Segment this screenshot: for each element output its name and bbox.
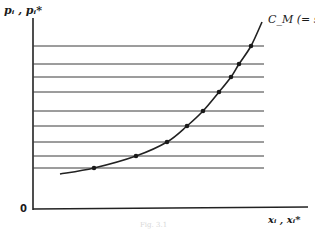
intersection-dot-5 [201, 109, 206, 114]
y-axis-label: pᵢ , pᵢ* [4, 4, 42, 17]
origin-label: 0 [20, 203, 27, 214]
x-axis-label: xᵢ , xᵢ* [268, 214, 300, 225]
intersection-dots [92, 44, 254, 171]
curve-label: C_M (= s) [268, 13, 315, 26]
x-axis [33, 207, 308, 209]
supply-curve-diagram [0, 0, 315, 232]
intersection-dot-6 [217, 90, 222, 95]
horizontal-price-lines [33, 46, 264, 168]
intersection-dot-9 [249, 44, 254, 49]
intersection-dot-3 [165, 140, 170, 145]
axes [33, 18, 308, 210]
intersection-dot-2 [134, 154, 139, 159]
intersection-dot-4 [185, 124, 190, 129]
intersection-dot-1 [92, 166, 97, 171]
intersection-dot-7 [229, 75, 234, 80]
cm-curve [60, 22, 262, 174]
figure-caption: Fig. 3.1 [140, 221, 167, 229]
intersection-dot-8 [237, 62, 242, 67]
